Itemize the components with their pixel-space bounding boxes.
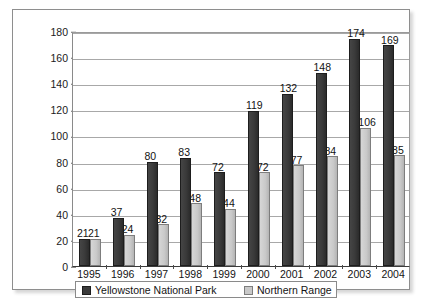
y-axis-tick-label: 180 [38,27,68,38]
x-axis-tick-label-2002: 2002 [309,269,343,280]
y-axis-tick-labels: 020406080100120140160180 [35,32,68,267]
legend-label: Yellowstone National Park [95,285,217,296]
bar-2001-series2: 77 [293,165,304,266]
bar-value-label: 83 [178,147,190,158]
x-axis-tick-mark [140,265,141,269]
bar-2000-series1: 119 [248,111,259,266]
bar-value-label: 80 [145,151,157,162]
bar-1995-series2: 21 [90,239,101,266]
legend-entry-1: Yellowstone National Park [82,284,217,296]
bar-1999-series2: 44 [225,209,236,266]
bar-1997-series1: 80 [147,162,158,266]
y-axis-tick-label: 20 [38,236,68,247]
bar-1996-series1: 37 [113,218,124,266]
bar-value-label: 119 [246,100,263,111]
x-axis-tick-label-2004: 2004 [376,269,410,280]
bar-2004-series2: 85 [394,155,405,266]
x-axis-tick-label-2001: 2001 [275,269,309,280]
x-axis-tick-mark [241,265,242,269]
legend-label: Northern Range [257,285,332,296]
x-axis-tick-label-1997: 1997 [140,269,174,280]
bar-2003-series2: 106 [360,128,371,266]
bar-value-label: 72 [212,162,224,173]
legend-swatch-icon [244,286,253,295]
x-axis-tick-mark [106,265,107,269]
bar-2002-series2: 84 [327,156,338,266]
y-axis-tick-label: 60 [38,183,68,194]
bar-1995-series1: 21 [79,239,90,266]
bar-1998-series1: 83 [180,158,191,266]
bar-value-label: 169 [381,35,399,46]
bar-value-label: 37 [111,207,123,218]
bar-1998-series2: 48 [191,203,202,266]
bar-2003-series1: 174 [349,39,360,266]
bar-2004-series1: 169 [383,45,394,266]
y-axis-tick-mark [71,267,76,268]
x-axis-tick-label-2003: 2003 [342,269,376,280]
bar-value-label: 132 [280,83,298,94]
y-axis-tick-label: 100 [38,131,68,142]
y-axis-tick-label: 120 [38,105,68,116]
y-axis-tick-label: 40 [38,210,68,221]
bar-value-label: 21 [77,228,89,239]
x-axis-tick-mark [342,265,343,269]
bar-value-label: 21 [88,228,100,239]
bar-value-label: 106 [358,117,376,128]
y-axis-tick-label: 140 [38,79,68,90]
x-axis-tick-mark [376,265,377,269]
x-axis-tick-mark [173,265,174,269]
plot-area: 2121372480328348724411972132771488417410… [72,32,410,267]
bar-2002-series1: 148 [316,73,327,266]
x-axis-tick-mark [275,265,276,269]
x-axis-tick-mark [207,265,208,269]
bar-1996-series2: 24 [124,235,135,266]
legend-swatch-icon [82,286,91,295]
wolf-population-bar-chart: Number of Wolves 02040608010012014016018… [0,0,427,306]
bar-1997-series2: 32 [158,224,169,266]
chart-legend: Yellowstone National ParkNorthern Range [75,281,337,298]
x-axis-tick-label-1996: 1996 [106,269,140,280]
x-axis-tick-label-1998: 1998 [173,269,207,280]
legend-entry-2: Northern Range [244,284,332,296]
x-axis-tick-label-1999: 1999 [207,269,241,280]
x-axis-tick-label-1995: 1995 [72,269,106,280]
y-axis-tick-label: 160 [38,53,68,64]
bar-2001-series1: 132 [282,94,293,266]
y-axis-tick-label: 0 [38,262,68,273]
chart-frame: Number of Wolves 02040608010012014016018… [12,9,410,290]
bar-2000-series2: 72 [259,172,270,266]
x-axis-tick-mark [309,265,310,269]
x-axis-tick-label-2000: 2000 [241,269,275,280]
bar-value-label: 174 [347,28,365,39]
bar-1999-series1: 72 [214,172,225,266]
bar-value-label: 148 [314,62,332,73]
y-axis-tick-label: 80 [38,157,68,168]
